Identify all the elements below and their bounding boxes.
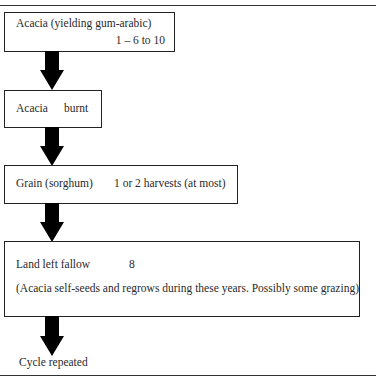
step-box-acacia-burnt: Acacia burnt [4, 90, 102, 128]
top-rule [0, 5, 376, 6]
step-note: (Acacia self-seeds and regrows during th… [16, 282, 359, 294]
step-detail: 1 – 6 to 10 [116, 34, 165, 46]
down-arrow-icon [40, 127, 64, 166]
step-detail: 8 [129, 258, 135, 270]
down-arrow-icon [40, 203, 64, 242]
down-arrow-icon [40, 316, 64, 356]
step-label: Grain (sorghum) [16, 177, 93, 189]
step-label: Land left fallow [16, 258, 90, 270]
down-arrow-icon [40, 51, 64, 90]
step-box-fallow: Land left fallow 8 (Acacia self-seeds an… [4, 241, 360, 317]
step-box-acacia-gum: Acacia (yielding gum-arabic) 1 – 6 to 10 [4, 12, 175, 52]
step-detail: 1 or 2 harvests (at most) [114, 177, 225, 189]
step-label: Acacia (yielding gum-arabic) [16, 17, 151, 29]
step-detail: burnt [64, 102, 88, 114]
bottom-rule [0, 375, 376, 376]
step-box-grain: Grain (sorghum) 1 or 2 harvests (at most… [4, 165, 238, 204]
end-label: Cycle repeated [19, 356, 88, 368]
step-label: Acacia [16, 102, 48, 114]
